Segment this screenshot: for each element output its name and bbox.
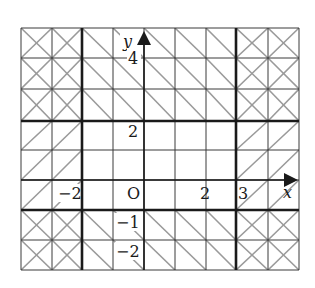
hatch-y-region: [21, 28, 299, 270]
tick-y-neg2: −2: [116, 242, 140, 261]
origin-label: O: [127, 184, 140, 203]
tick-y-2: 2: [128, 122, 138, 141]
hatch-x-region: [21, 28, 299, 270]
x-axis-label: x: [283, 183, 292, 202]
tick-y-4: 4: [128, 49, 138, 68]
grid-lines: [21, 28, 299, 270]
boundary-lines: [21, 28, 299, 270]
coordinate-diagram: y 4 2 O 2 3 x −2 −1 −2: [0, 0, 315, 288]
tick-x-2: 2: [200, 184, 210, 203]
tick-x-3: 3: [238, 184, 248, 203]
tick-x-neg2: −2: [58, 184, 82, 203]
labels: y 4 2 O 2 3 x −2 −1 −2: [56, 30, 292, 261]
axes: [21, 44, 286, 270]
tick-y-neg1: −1: [116, 213, 140, 232]
